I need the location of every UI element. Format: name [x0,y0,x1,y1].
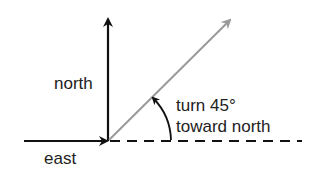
turn-angle-label: turn 45° [176,96,236,115]
north-label: north [54,74,93,93]
east-label: east [44,149,76,168]
toward-north-label: toward north [176,117,271,136]
rotation-diagram: north east turn 45° toward north [0,0,320,172]
angle-arc-arrow [153,98,171,140]
